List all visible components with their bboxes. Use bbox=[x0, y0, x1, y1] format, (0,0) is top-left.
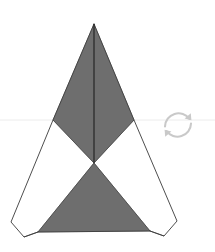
figure-canvas: Folded paper net bbox=[0, 0, 215, 252]
rotate-icon-container[interactable] bbox=[155, 103, 201, 147]
rotate-icon[interactable] bbox=[155, 103, 201, 147]
